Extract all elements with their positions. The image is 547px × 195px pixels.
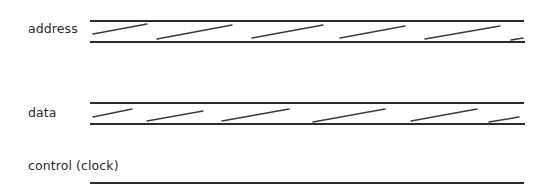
- bus-hatch-mark: [511, 38, 523, 40]
- address-bus: [90, 21, 525, 42]
- data-bus: [90, 103, 525, 124]
- bus-hatch-mark: [93, 109, 132, 117]
- bus-hatch-mark: [340, 26, 405, 38]
- bus-timing-diagram: [0, 0, 547, 195]
- bus-hatch-mark: [411, 109, 477, 121]
- bus-hatch-mark: [157, 25, 232, 39]
- bus-hatch-mark: [489, 117, 519, 122]
- bus-hatch-mark: [425, 26, 500, 39]
- bus-hatch-mark: [252, 25, 323, 38]
- bus-hatch-mark: [147, 111, 203, 121]
- bus-hatch-mark: [313, 109, 385, 122]
- bus-hatch-mark: [222, 109, 289, 121]
- bus-hatch-mark: [93, 24, 147, 34]
